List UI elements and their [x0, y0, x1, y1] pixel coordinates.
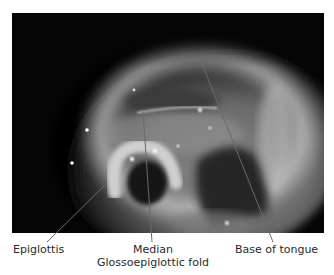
label-median-glossoepiglottic-fold: Median Glossoepiglottic fold: [97, 243, 209, 269]
anatomy-figure: Epiglottis Median Glossoepiglottic fold …: [0, 0, 334, 275]
label-median-line2: Glossoepiglottic fold: [97, 256, 209, 269]
label-epiglottis: Epiglottis: [13, 243, 64, 256]
label-median-line1: Median: [97, 243, 209, 256]
endoscopy-image: [12, 13, 324, 233]
endoscopy-photo: [12, 13, 324, 233]
label-base-of-tongue: Base of tongue: [235, 243, 318, 256]
